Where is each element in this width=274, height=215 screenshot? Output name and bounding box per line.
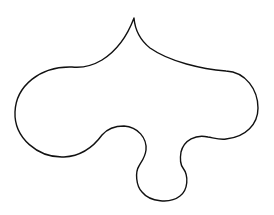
blob-shape-figure	[0, 0, 274, 215]
closed-curve-outline	[15, 18, 258, 201]
